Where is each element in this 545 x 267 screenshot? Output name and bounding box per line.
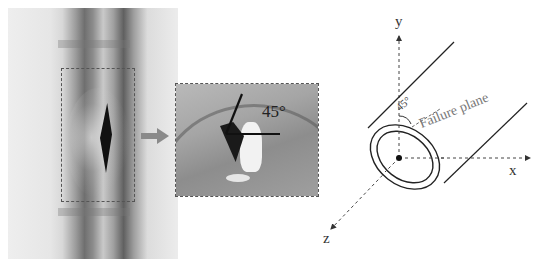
failure-plane-schematic bbox=[0, 0, 545, 267]
x-axis-label: x bbox=[509, 162, 517, 179]
z-axis-label: z bbox=[323, 230, 330, 247]
y-axis-label: y bbox=[395, 13, 403, 30]
